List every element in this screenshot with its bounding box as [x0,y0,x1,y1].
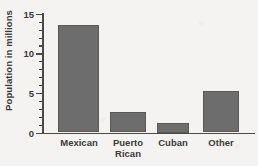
y-tick-label-5: 5 [8,89,34,99]
y-tick-minor-4 [39,101,43,102]
y-tick-major-10 [36,53,43,54]
bar-puerto-rican [110,112,146,133]
y-tick-major-0 [36,133,43,134]
x-category-label-puerto-rican: PuertoRican [102,137,154,159]
y-tick-minor-2 [39,117,43,118]
x-category-label-mexican: Mexican [52,137,106,148]
y-tick-major-15 [36,14,43,15]
bar-cuban [157,123,189,133]
y-tick-minor-6 [39,85,43,86]
x-axis-line [42,133,255,135]
y-tick-minor-12 [39,38,43,39]
y-tick-label-15: 15 [8,10,34,20]
y-tick-minor-8 [39,69,43,70]
x-category-label-puerto-rican-line1: Puerto [113,137,143,148]
x-category-label-other: Other [197,137,245,148]
x-category-label-cuban: Cuban [149,137,197,148]
y-tick-minor-14 [39,22,43,23]
y-tick-minor-3 [39,109,43,110]
y-tick-label-0: 0 [8,129,34,139]
y-tick-label-10: 10 [8,49,34,59]
bar-other [203,91,239,132]
y-tick-minor-9 [39,61,43,62]
y-tick-minor-11 [39,45,43,46]
y-tick-minor-7 [39,77,43,78]
bar-chart-figure: Population in millions 0 5 10 15 Mexican… [0,0,258,166]
x-category-label-puerto-rican-line2: Rican [115,148,141,159]
y-tick-minor-13 [39,30,43,31]
y-tick-major-5 [36,93,43,94]
y-tick-minor-1 [39,125,43,126]
bar-mexican [58,25,99,132]
